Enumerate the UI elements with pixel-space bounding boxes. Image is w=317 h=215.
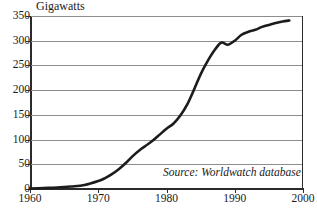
chart-screenshot: Gigawatts 050100150200250300350 19601970… — [0, 0, 317, 215]
x-tick-mark-2000 — [303, 189, 304, 193]
x-tick-mark-1980 — [167, 189, 168, 193]
data-series-line — [30, 16, 303, 189]
x-tick-label-1980: 1980 — [137, 192, 197, 204]
x-tick-mark-1970 — [98, 189, 99, 193]
nuclear-capacity-curve — [30, 20, 289, 188]
x-tick-label-2000: 2000 — [273, 192, 317, 204]
x-tick-label-1970: 1970 — [68, 192, 128, 204]
x-tick-label-1960: 1960 — [0, 192, 60, 204]
x-tick-label-1990: 1990 — [205, 192, 265, 204]
source-annotation: Source: Worldwatch database — [163, 166, 301, 179]
x-tick-mark-1990 — [235, 189, 236, 193]
